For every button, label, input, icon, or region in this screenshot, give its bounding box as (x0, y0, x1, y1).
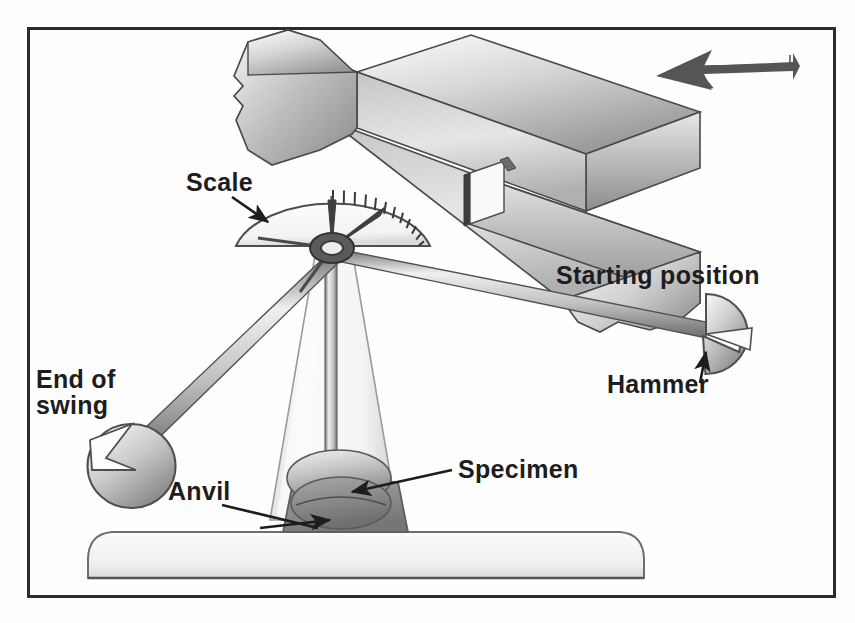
diagram-canvas: Scale Starting position Hammer End of sw… (0, 0, 855, 623)
column-center-rod (325, 250, 337, 482)
charpy-impact-test-figure: Scale Starting position Hammer End of sw… (0, 0, 855, 623)
pivot-bearing (321, 241, 343, 255)
label-starting-position: Starting position (556, 261, 760, 289)
specimen-notch (464, 173, 470, 226)
label-specimen: Specimen (458, 455, 579, 483)
label-anvil: Anvil (168, 477, 231, 505)
striker-disc-lower (291, 477, 391, 529)
label-hammer: Hammer (607, 370, 709, 398)
label-scale: Scale (186, 168, 253, 196)
label-end-of-swing-line2: swing (36, 391, 108, 419)
base-plate (88, 532, 644, 578)
machine-base (88, 532, 644, 578)
label-end-of-swing-line1: End of (36, 365, 116, 393)
